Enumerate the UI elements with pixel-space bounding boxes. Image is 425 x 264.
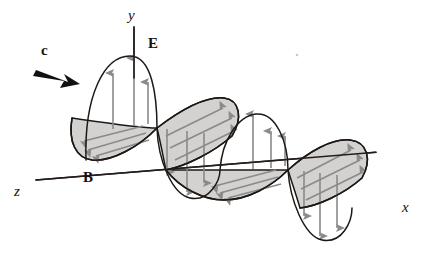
axis-label-z: z <box>13 183 20 199</box>
field-label-c: c <box>41 42 48 58</box>
axis-label-y: y <box>126 7 135 23</box>
c-propagation-arrow <box>33 70 80 88</box>
field-label-b: B <box>83 169 93 185</box>
c-arrow-glyph <box>33 70 80 88</box>
scan-speck <box>296 54 299 57</box>
field-label-e: E <box>148 35 158 51</box>
b-lobe-4 <box>288 140 367 208</box>
em-wave-diagram: y x z E B c <box>0 0 425 264</box>
em-wave-figure: y x z E B c <box>0 0 425 264</box>
axis-label-x: x <box>401 199 409 215</box>
